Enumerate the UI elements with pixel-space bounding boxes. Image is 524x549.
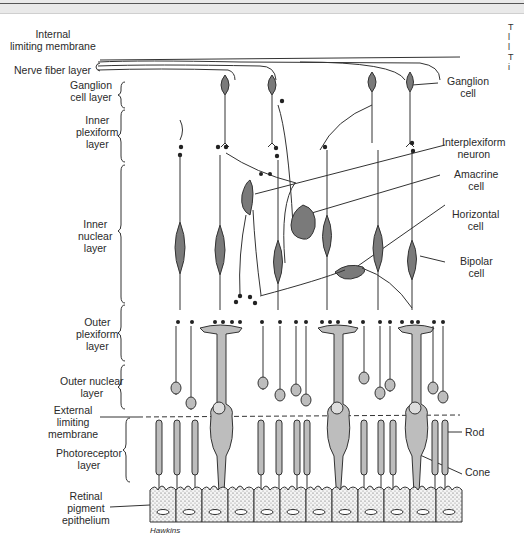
label-interplexiform-neuron: Interplexiformneuron (442, 136, 506, 160)
pigment-epithelium-cells (150, 486, 462, 522)
label-cone: Cone (465, 466, 490, 478)
label-external-limiting-membrane: Externallimitingmembrane (48, 404, 98, 440)
label-horizontal-cell: Horizontalcell (452, 208, 499, 232)
label-amacrine-cell: Amacrinecell (454, 168, 498, 192)
label-nerve-fiber-layer: Nerve fiber layer (14, 64, 91, 76)
artist-signature: Hawkins (150, 525, 180, 537)
label-outer-plexiform-layer: Outerplexiformlayer (76, 316, 119, 352)
label-ganglion-cell: Ganglioncell (447, 75, 489, 99)
label-inner-nuclear-layer: Innernuclearlayer (78, 218, 112, 254)
label-ganglion-cell-layer: Ganglioncell layer (70, 79, 112, 103)
label-retinal-pigment-epithelium: Retinalpigmentepithelium (62, 490, 110, 526)
label-inner-plexiform-layer: Innerplexiformlayer (76, 114, 119, 150)
label-photoreceptor-layer: Photoreceptorlayer (56, 447, 122, 471)
cropped-text-fragment: TllTi (508, 22, 514, 72)
label-outer-nuclear-layer: Outer nuclearlayer (60, 375, 124, 399)
label-rod: Rod (465, 426, 484, 438)
label-internal-limiting-membrane: Internallimiting membrane (10, 28, 96, 52)
label-bipolar-cell: Bipolarcell (460, 255, 493, 279)
internal-limiting-membrane-line (100, 57, 460, 60)
